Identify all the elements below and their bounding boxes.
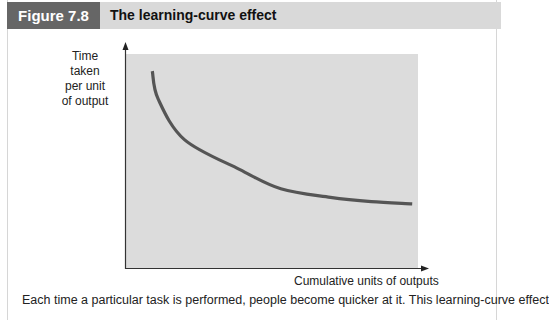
x-axis-arrow-icon xyxy=(421,266,429,272)
plot-area xyxy=(126,54,418,268)
figure-caption: Each time a particular task is performed… xyxy=(22,293,549,307)
y-axis-arrow-icon xyxy=(123,42,129,50)
x-axis-label: Cumulative units of outputs xyxy=(294,274,439,288)
